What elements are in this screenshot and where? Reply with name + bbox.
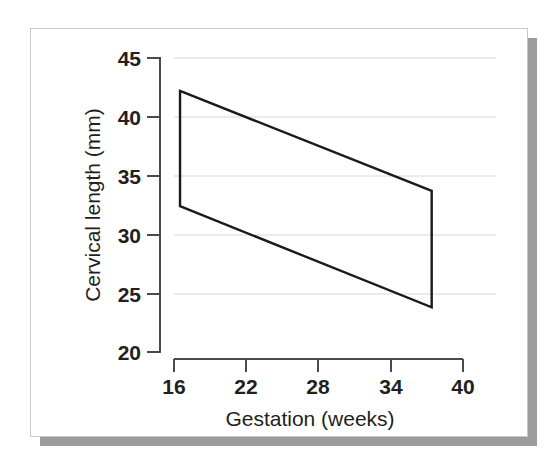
y-tick-label-35: 35	[118, 165, 142, 188]
reference-band-polygon	[180, 91, 432, 307]
x-axis: 16 22 28 34 40	[162, 359, 474, 398]
y-tick-label-20: 20	[118, 341, 141, 364]
x-tick-label-28: 28	[306, 375, 330, 398]
y-tick-label-25: 25	[118, 283, 142, 306]
figure-root: 45 40 35 30 25 20 16 22 28 34 40 Gestati…	[0, 0, 554, 462]
y-tick-label-40: 40	[118, 106, 141, 129]
y-tick-label-30: 30	[118, 224, 141, 247]
chart-canvas: 45 40 35 30 25 20 16 22 28 34 40 Gestati…	[0, 0, 554, 462]
y-axis-title: Cervical length (mm)	[81, 108, 104, 302]
x-tick-label-40: 40	[451, 375, 474, 398]
x-axis-title: Gestation (weeks)	[225, 407, 394, 430]
y-axis: 45 40 35 30 25 20	[118, 47, 160, 364]
x-tick-label-22: 22	[234, 375, 257, 398]
x-tick-label-34: 34	[379, 375, 403, 398]
x-tick-label-16: 16	[162, 375, 185, 398]
y-tick-label-45: 45	[118, 47, 142, 70]
